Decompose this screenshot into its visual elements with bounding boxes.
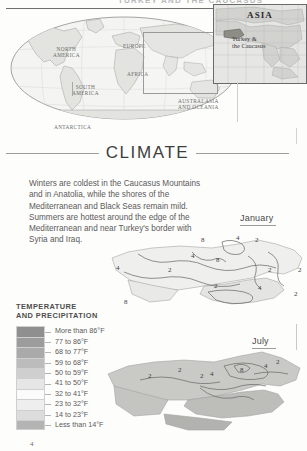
contour-label: 4 — [191, 252, 195, 260]
legend-tick — [45, 326, 52, 336]
legend-tick — [45, 358, 52, 368]
july-map-graphic: 2 2 2 4 8 4 2 — [104, 330, 306, 434]
contour-label: 4 — [236, 234, 240, 242]
legend-swatch — [16, 326, 45, 336]
contour-label: 2 — [214, 282, 218, 290]
world-locator-map: NORTHAMERICA EUROPE AFRICA SOUTHAMERICA … — [6, 10, 242, 122]
inset-leader-line — [72, 82, 73, 96]
map-label-north-america: NORTHAMERICA — [53, 46, 80, 58]
legend-label: 23 to 32°F — [52, 399, 88, 409]
contour-label: 2 — [148, 372, 152, 380]
legend-row: 41 to 50°F — [16, 378, 120, 388]
legend-row: 50 to 59°F — [16, 368, 120, 378]
asia-inset-map: ASIA Turkey &the Caucasus — [213, 4, 307, 84]
legend-row: 68 to 77°F — [16, 347, 120, 357]
right-margin-rule-top — [296, 128, 297, 144]
january-underline — [240, 225, 276, 226]
contour-label: 2 — [298, 266, 302, 274]
page-canvas: TURKEY AND THE CAUCASUS — [0, 0, 307, 451]
legend-tick — [45, 368, 52, 378]
legend-title-line1: TEMPERATURE — [16, 302, 120, 311]
legend-label: 50 to 59°F — [52, 368, 88, 378]
legend-swatch — [16, 368, 45, 378]
header-rule — [6, 8, 237, 9]
legend-row: More than 86°F — [16, 326, 120, 336]
map-label-antarctica: ANTARCTICA — [54, 124, 91, 130]
map-extent-rectangle — [143, 32, 218, 94]
legend-label: Less than 14°F — [52, 420, 103, 430]
legend-tick — [45, 389, 52, 399]
legend-label: 41 to 50°F — [52, 378, 88, 388]
inset-leader-line-right — [237, 82, 238, 122]
legend-row: 59 to 68°F — [16, 358, 120, 368]
contour-label: 2 — [294, 290, 298, 298]
legend-tick — [45, 337, 52, 347]
legend-tick — [45, 420, 52, 430]
contour-label: 2 — [200, 372, 204, 380]
contour-label: 2 — [178, 366, 182, 374]
map-legend: TEMPERATURE AND PRECIPITATION More than … — [16, 302, 120, 430]
contour-label: 4 — [116, 264, 120, 272]
page-number: 4 — [30, 440, 34, 448]
legend-title-line2: AND PRECIPITATION — [16, 311, 120, 320]
legend-tick — [45, 410, 52, 420]
legend-row: 14 to 23°F — [16, 410, 120, 420]
contour-label: 2 — [276, 358, 280, 366]
legend-label: 59 to 68°F — [52, 358, 88, 368]
map-label-south-america: SOUTHAMERICA — [72, 84, 99, 96]
contour-label: 2 — [255, 236, 259, 244]
legend-label: 68 to 77°F — [52, 347, 88, 357]
legend-swatch — [16, 347, 45, 357]
contour-label: 8 — [240, 366, 244, 374]
legend-swatch — [16, 337, 45, 347]
january-climate-map: 8 4 2 4 8 2 4 2 2 2 4 2 8 — [108, 228, 306, 320]
right-margin-rule-bottom — [296, 324, 297, 350]
contour-label: 4 — [258, 284, 262, 292]
contour-label: 8 — [201, 236, 205, 244]
contour-label: 4 — [210, 370, 214, 378]
contour-label: 4 — [264, 362, 268, 370]
legend-row: 23 to 32°F — [16, 399, 120, 409]
heading-rule-left — [6, 153, 99, 154]
july-climate-map: 2 2 2 4 8 4 2 — [104, 330, 306, 434]
legend-entries: More than 86°F77 to 86°F68 to 77°F59 to … — [16, 326, 120, 430]
inset-subtitle: Turkey &the Caucasus — [232, 35, 294, 50]
legend-label: 77 to 86°F — [52, 337, 88, 347]
legend-row: 32 to 41°F — [16, 389, 120, 399]
contour-label: 2 — [168, 266, 172, 274]
january-map-graphic: 8 4 2 4 8 2 4 2 2 2 4 2 8 — [108, 228, 306, 320]
legend-row: Less than 14°F — [16, 420, 120, 430]
contour-label: 8 — [216, 256, 220, 264]
legend-swatch — [16, 420, 45, 430]
legend-tick — [45, 347, 52, 357]
legend-swatch — [16, 358, 45, 368]
legend-title: TEMPERATURE AND PRECIPITATION — [16, 302, 120, 320]
map-label-australasia: AUSTRALASIAAND OCEANIA — [178, 98, 219, 110]
heading-rule-right — [196, 153, 289, 154]
legend-swatch — [16, 378, 45, 388]
inset-title: ASIA — [214, 10, 306, 20]
contour-label: 8 — [124, 298, 128, 306]
map-label-january: January — [240, 213, 276, 226]
legend-tick — [45, 399, 52, 409]
section-heading: CLIMATE — [6, 142, 289, 164]
contour-label: 2 — [268, 266, 272, 274]
legend-swatch — [16, 399, 45, 409]
legend-swatch — [16, 410, 45, 420]
legend-tick — [45, 378, 52, 388]
january-text: January — [240, 213, 273, 223]
legend-row: 77 to 86°F — [16, 337, 120, 347]
legend-label: More than 86°F — [52, 326, 105, 336]
legend-swatch — [16, 389, 45, 399]
legend-label: 14 to 23°F — [52, 410, 88, 420]
page-title: CLIMATE — [106, 143, 190, 163]
legend-label: 32 to 41°F — [52, 389, 88, 399]
